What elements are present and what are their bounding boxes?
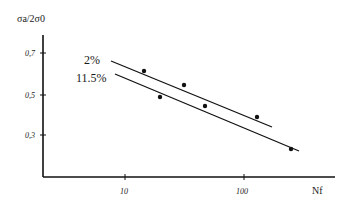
y-tick-label-0.3: 0,3 [25, 131, 35, 140]
data-point-11-5pct-1 [158, 95, 162, 99]
data-point-2pct-2 [182, 83, 186, 87]
data-point-2pct-1 [142, 69, 146, 73]
y-tick-label-0.7: 0,7 [25, 49, 36, 58]
y-axis-label: σa/2σ0 [17, 13, 45, 24]
fit-line-2pct [111, 61, 272, 127]
x-axis-label: Nf [312, 185, 323, 196]
data-point-11-5pct-2 [203, 104, 207, 108]
data-point-2pct-3 [255, 115, 259, 119]
data-point-11-5pct-3 [289, 147, 293, 151]
series-label-2pct: 2% [84, 53, 100, 67]
y-tick-label-0.5: 0,5 [25, 91, 35, 100]
x-tick-label-100: 100 [236, 187, 248, 196]
series-label-11-5pct: 11.5% [76, 71, 107, 85]
chart: 0,7 0,5 0,3 10 100 σa/2σ0 Nf 2% 11.5% [0, 0, 352, 206]
x-tick-label-10: 10 [120, 187, 128, 196]
fit-line-11-5pct [115, 74, 299, 151]
